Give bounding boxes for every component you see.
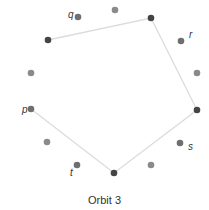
node-p bbox=[28, 106, 35, 113]
orbit-path bbox=[31, 18, 197, 173]
node-n6 bbox=[148, 162, 155, 169]
node-label-s: s bbox=[188, 141, 193, 152]
node-label-q: q bbox=[68, 9, 74, 20]
node-n11 bbox=[28, 70, 35, 77]
node-label-p: p bbox=[21, 104, 28, 115]
node-n9 bbox=[44, 139, 51, 146]
node-q bbox=[75, 14, 82, 21]
node-n3 bbox=[194, 70, 201, 77]
node-n1 bbox=[148, 15, 155, 22]
node-t bbox=[74, 162, 81, 169]
node-n7 bbox=[111, 170, 118, 177]
node-n12 bbox=[45, 37, 52, 44]
diagram-caption: Orbit 3 bbox=[0, 194, 209, 206]
node-n0 bbox=[112, 7, 119, 14]
node-label-r: r bbox=[189, 29, 193, 40]
orbit-diagram: rstpq bbox=[0, 0, 209, 210]
node-label-t: t bbox=[70, 167, 74, 178]
node-s bbox=[177, 140, 184, 147]
node-n4 bbox=[194, 107, 201, 114]
node-r bbox=[178, 38, 185, 45]
